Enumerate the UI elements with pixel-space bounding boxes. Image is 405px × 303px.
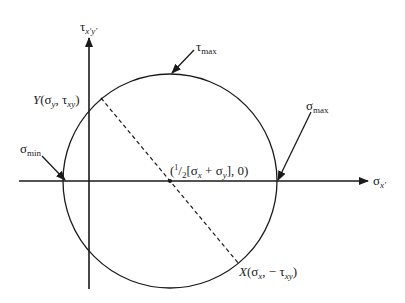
tau-max-arrow	[172, 50, 194, 73]
sigma-min-arrow	[42, 156, 65, 180]
sigma-max-label: σmax	[306, 99, 329, 115]
subscript: xy	[285, 271, 293, 281]
tau-max-label: τmax	[196, 40, 217, 56]
tau-max-subscript: max	[201, 46, 217, 56]
sigma-min-symbol: σ	[20, 141, 27, 156]
plus-sign: +	[202, 163, 216, 178]
sigma-max-symbol: σ	[306, 98, 313, 113]
sigma-max-arrow	[278, 112, 311, 180]
point-x-label: X(σx, − τxy)	[239, 265, 297, 281]
paren-close: )	[75, 92, 79, 107]
sigma-axis-subscript: x′	[380, 180, 386, 190]
paren-close: )	[293, 264, 297, 279]
point-y-label: Y(σy, τxy)	[33, 93, 80, 109]
sigma-symbol: σ	[45, 92, 52, 107]
sigma-min-subscript: min	[27, 148, 41, 158]
sigma-axis-label: σx′	[373, 174, 386, 190]
sigma-symbol: σ	[191, 163, 198, 178]
sigma-max-subscript: max	[313, 105, 329, 115]
sigma-symbol: σ	[216, 163, 223, 178]
center-label: (1/2[σx + σy], 0)	[170, 164, 248, 180]
separator: , −	[262, 264, 279, 279]
point-x-name: X	[239, 264, 247, 279]
sigma-min-label: σmin	[20, 142, 41, 158]
bracket-close: ], 0)	[227, 163, 249, 178]
tau-axis-subscript: x′y′	[85, 26, 97, 36]
sigma-symbol: σ	[373, 173, 380, 188]
tau-axis-label: τx′y′	[80, 20, 97, 36]
